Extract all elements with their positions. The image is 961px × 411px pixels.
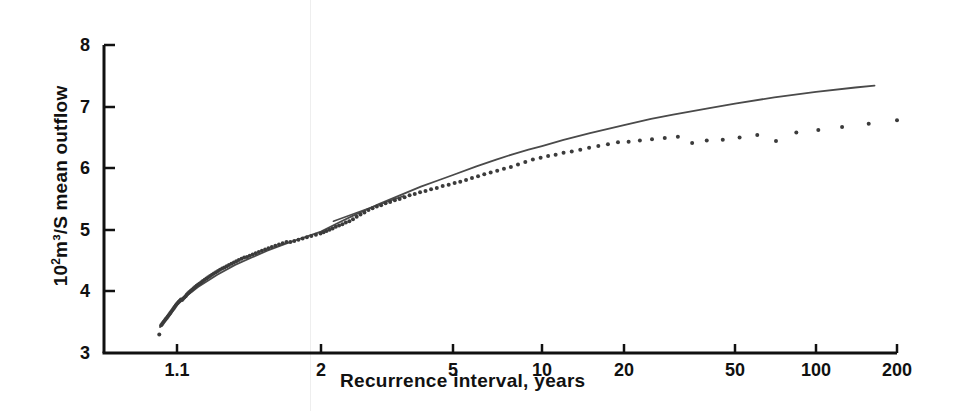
data-point — [379, 203, 383, 207]
data-point — [288, 240, 292, 244]
data-point — [296, 238, 300, 242]
data-point — [554, 153, 558, 157]
chart-figure: 102m³/S mean outflow Recurrence interval… — [0, 0, 961, 411]
data-point — [157, 333, 161, 337]
y-tick-label: 8 — [58, 35, 90, 56]
data-point — [355, 215, 359, 219]
data-point — [570, 150, 574, 154]
data-point — [489, 171, 493, 175]
data-point — [546, 154, 550, 158]
x-tick-label: 100 — [801, 360, 831, 381]
y-tick-label: 6 — [58, 158, 90, 179]
data-point — [738, 135, 742, 139]
chart-plot-area — [0, 0, 961, 411]
data-point — [398, 197, 402, 201]
data-point — [424, 189, 428, 193]
x-tick-label: 50 — [725, 360, 745, 381]
data-point — [441, 184, 445, 188]
data-point — [418, 190, 422, 194]
data-point — [277, 243, 281, 247]
data-point — [408, 193, 412, 197]
data-point — [340, 222, 344, 226]
data-point — [663, 136, 667, 140]
y-tick-label: 5 — [58, 220, 90, 241]
data-point — [495, 169, 499, 173]
data-point — [309, 234, 313, 238]
data-point — [305, 235, 309, 239]
data-point — [447, 183, 451, 187]
data-point — [359, 212, 363, 216]
data-point — [284, 240, 288, 244]
data-point — [314, 233, 318, 237]
data-point — [388, 200, 392, 204]
data-point — [347, 219, 351, 223]
data-point — [721, 138, 725, 142]
data-point — [531, 158, 535, 162]
data-point — [627, 140, 631, 144]
data-point — [429, 187, 433, 191]
x-tick-label: 20 — [614, 360, 634, 381]
data-point — [301, 236, 305, 240]
data-point — [509, 165, 513, 169]
data-point — [755, 133, 759, 137]
data-point — [384, 201, 388, 205]
data-point — [366, 208, 370, 212]
data-point — [266, 246, 270, 250]
data-point — [470, 176, 474, 180]
data-point — [539, 156, 543, 160]
data-point — [403, 195, 407, 199]
data-point — [270, 245, 274, 249]
data-point — [458, 180, 462, 184]
data-point — [676, 135, 680, 139]
data-point — [435, 186, 439, 190]
data-point — [690, 141, 694, 145]
data-point — [516, 163, 520, 167]
data-point — [371, 206, 375, 210]
data-point — [482, 172, 486, 176]
data-point — [476, 174, 480, 178]
x-tick-label: 1.1 — [164, 360, 189, 381]
data-point — [375, 204, 379, 208]
data-point — [292, 239, 296, 243]
x-tick-label: 10 — [532, 360, 552, 381]
data-point — [794, 130, 798, 134]
data-point — [616, 140, 620, 144]
data-point — [596, 144, 600, 148]
data-point — [638, 138, 642, 142]
data-point — [393, 198, 397, 202]
x-tick-label: 5 — [448, 360, 458, 381]
data-point — [502, 167, 506, 171]
data-point — [344, 220, 348, 224]
data-point — [816, 128, 820, 132]
data-point — [351, 217, 355, 221]
data-point — [362, 211, 366, 215]
y-tick-label: 3 — [58, 343, 90, 364]
data-point — [453, 181, 457, 185]
data-point — [840, 125, 844, 129]
data-point — [606, 142, 610, 146]
data-point — [587, 146, 591, 150]
x-tick-label: 2 — [316, 360, 326, 381]
data-point — [650, 137, 654, 141]
data-point — [895, 118, 899, 122]
data-point — [464, 178, 468, 182]
data-point — [562, 151, 566, 155]
data-point — [867, 122, 871, 126]
data-point — [523, 160, 527, 164]
data-point — [273, 244, 277, 248]
data-point — [281, 241, 285, 245]
data-point — [413, 192, 417, 196]
y-tick-label: 4 — [58, 281, 90, 302]
y-tick-label: 7 — [58, 97, 90, 118]
x-tick-label: 200 — [882, 360, 912, 381]
data-point — [774, 139, 778, 143]
data-point — [578, 148, 582, 152]
data-point — [705, 138, 709, 142]
